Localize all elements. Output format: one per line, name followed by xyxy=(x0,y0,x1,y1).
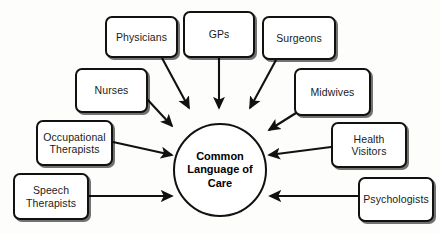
arrow-physicians-to-hub xyxy=(162,58,189,108)
node-physicians[interactable]: Physicians xyxy=(105,16,178,58)
node-occupational-therapists-label: Occupational Therapists xyxy=(40,131,109,155)
node-nurses[interactable]: Nurses xyxy=(75,68,148,113)
node-speech-therapists[interactable]: Speech Therapists xyxy=(13,173,89,220)
node-speech-therapists-label: Speech Therapists xyxy=(23,184,79,208)
node-physicians-label: Physicians xyxy=(113,31,170,43)
node-speech-therapists-label-line1: Speech xyxy=(23,184,79,196)
node-nurses-label: Nurses xyxy=(92,84,132,96)
node-surgeons[interactable]: Surgeons xyxy=(262,16,336,60)
node-speech-therapists-label-line2: Therapists xyxy=(23,197,79,209)
hub-label-line2: Language xyxy=(187,163,239,175)
node-health-visitors-label-line1: Health xyxy=(348,133,389,145)
node-psychologists[interactable]: Psychologists xyxy=(358,177,434,222)
node-midwives-label: Midwives xyxy=(308,86,358,98)
arrow-midwives-to-hub xyxy=(269,113,296,130)
node-occupational-therapists-label-line2: Therapists xyxy=(40,143,109,155)
node-health-visitors[interactable]: Health Visitors xyxy=(331,122,407,168)
arrow-occupational-therapists-to-hub xyxy=(113,142,172,155)
node-health-visitors-label: Health Visitors xyxy=(348,133,389,157)
hub-label-line1: Common xyxy=(196,150,244,162)
node-gps[interactable]: GPs xyxy=(183,11,255,58)
concept-diagram: Physicians GPs Surgeons Nurses Midwives … xyxy=(0,0,440,234)
node-gps-label: GPs xyxy=(206,28,233,40)
hub-common-language-of-care[interactable]: Common Language of Care xyxy=(173,123,267,217)
hub-label: Common Language of Care xyxy=(175,150,265,190)
node-occupational-therapists[interactable]: Occupational Therapists xyxy=(36,120,113,166)
arrow-health-visitors-to-hub xyxy=(269,147,331,155)
arrow-surgeons-to-hub xyxy=(250,60,276,108)
node-midwives[interactable]: Midwives xyxy=(294,68,371,116)
node-surgeons-label: Surgeons xyxy=(273,32,325,44)
node-occupational-therapists-label-line1: Occupational xyxy=(40,131,109,143)
node-psychologists-label: Psychologists xyxy=(360,193,432,205)
arrow-nurses-to-hub xyxy=(146,98,172,126)
node-health-visitors-label-line2: Visitors xyxy=(348,145,389,157)
